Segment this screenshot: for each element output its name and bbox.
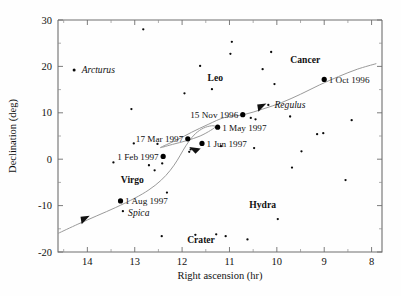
star-point: [161, 235, 163, 237]
x-tick-label: 14: [82, 256, 93, 267]
star-point: [142, 28, 144, 30]
star-point: [153, 169, 155, 171]
constellation-label: Leo: [208, 72, 224, 83]
y-tick-label: -20: [38, 247, 52, 258]
star-point: [183, 92, 185, 94]
star-point: [291, 166, 293, 168]
star-point: [229, 53, 231, 55]
comet-position-marker: [185, 136, 190, 141]
comet-position-marker: [240, 112, 245, 117]
star-point: [270, 51, 272, 53]
star-chart-figure: 3020100-10-20141312111098Right ascension…: [0, 0, 401, 296]
star-point: [300, 150, 302, 152]
x-tick-label: 12: [177, 256, 188, 267]
star-point: [316, 133, 318, 135]
star-point: [73, 69, 76, 72]
star-point: [351, 119, 353, 121]
chart-svg: 3020100-10-20141312111098Right ascension…: [0, 0, 401, 296]
x-axis-title: Right ascension (hr): [177, 270, 263, 282]
y-tick-label: -10: [38, 200, 52, 211]
star-point: [250, 117, 252, 119]
y-tick-label: 0: [47, 154, 52, 165]
star-point: [344, 179, 346, 181]
star-point: [322, 132, 324, 134]
constellation-label: Cancer: [290, 54, 321, 65]
star-point: [273, 83, 275, 85]
star-point: [166, 191, 168, 193]
comet-date-label: 1 May 1997: [222, 123, 267, 133]
star-point: [267, 104, 269, 106]
constellation-label: Hydra: [249, 199, 276, 210]
x-tick-label: 9: [322, 256, 327, 267]
star-name-label: Spica: [128, 207, 150, 218]
star-name-label: Regulus: [273, 99, 305, 110]
star-point: [211, 88, 213, 90]
y-tick-label: 30: [42, 15, 53, 26]
star-point: [199, 65, 201, 67]
plot-frame: [58, 20, 382, 252]
star-point: [289, 115, 291, 117]
y-axis-title: Declination (deg): [7, 99, 19, 173]
star-point: [261, 68, 263, 70]
x-tick-label: 10: [272, 256, 283, 267]
constellation-label: Crater: [187, 234, 215, 245]
star-name-label: Arcturus: [81, 64, 115, 75]
path-direction-arrow: [78, 213, 91, 224]
comet-position-marker: [215, 125, 220, 130]
star-point: [225, 235, 227, 237]
comet-date-label: 1 Feb 1997: [117, 152, 159, 162]
comet-position-marker: [322, 77, 327, 82]
star-point: [231, 41, 233, 43]
comet-position-marker: [161, 154, 166, 159]
star-point: [130, 108, 132, 110]
star-point: [189, 148, 191, 150]
y-tick-label: 20: [42, 61, 53, 72]
x-tick-label: 8: [369, 256, 374, 267]
comet-date-label: 1 Jun 1997: [207, 139, 248, 149]
star-point: [122, 210, 124, 212]
constellation-label: Virgo: [121, 174, 144, 185]
star-point: [246, 238, 248, 240]
comet-position-marker: [199, 141, 204, 146]
comet-position-marker: [118, 198, 123, 203]
comet-date-label: 1 Aug 1997: [125, 196, 168, 206]
star-point: [133, 142, 135, 144]
comet-date-label: 1 Oct 1996: [329, 75, 370, 85]
star-point: [188, 151, 190, 153]
star-point: [148, 164, 150, 166]
path-direction-arrow: [255, 100, 268, 111]
star-point: [253, 147, 255, 149]
plot-area: 3020100-10-20141312111098Right ascension…: [0, 0, 401, 296]
y-tick-label: 10: [42, 107, 53, 118]
star-point: [161, 162, 163, 164]
comet-date-label: 15 Nov 1996: [190, 110, 238, 120]
star-point: [277, 218, 279, 220]
x-tick-label: 13: [129, 256, 140, 267]
star-point: [254, 118, 256, 120]
comet-date-label: 17 Mar 1997: [136, 134, 184, 144]
x-tick-label: 11: [224, 256, 234, 267]
star-point: [215, 233, 217, 235]
star-point: [112, 161, 114, 163]
